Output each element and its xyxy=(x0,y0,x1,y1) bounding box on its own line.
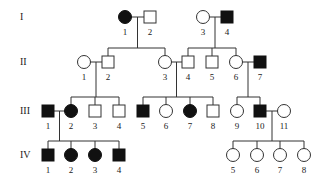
individual-number: 7 xyxy=(188,121,193,131)
affected-male-iv-1-square-icon xyxy=(42,149,54,161)
individual-number: 4 xyxy=(225,27,230,37)
affected-male-iv-4-square-icon xyxy=(113,149,125,161)
individual-number: 4 xyxy=(186,72,191,82)
generation-label: III xyxy=(20,105,30,116)
affected-female-i-1-circle-icon xyxy=(119,11,132,24)
affected-male-iii-1-square-icon xyxy=(42,105,54,117)
affected-female-iv-2-circle-icon xyxy=(65,149,78,162)
individual-number: 4 xyxy=(117,121,122,131)
individual-number: 6 xyxy=(234,72,239,82)
unaffected-male-ii-2-square-icon xyxy=(102,56,114,68)
unaffected-female-ii-1-circle-icon xyxy=(78,56,91,69)
individual-number: 2 xyxy=(69,165,74,175)
relationship-lines xyxy=(48,17,304,149)
individual-number: 5 xyxy=(141,121,146,131)
pedigree-canvas: IIIIIIIV 1234123456712345678910111234567… xyxy=(0,0,326,182)
affected-male-iii-10-square-icon xyxy=(254,105,266,117)
individual-number: 2 xyxy=(69,121,74,131)
individual-number: 6 xyxy=(164,121,169,131)
unaffected-female-iv-5-circle-icon xyxy=(227,149,240,162)
unaffected-male-ii-4-square-icon xyxy=(182,56,194,68)
individual-number: 3 xyxy=(93,165,98,175)
unaffected-male-iii-8-square-icon xyxy=(207,105,219,117)
generation-label: II xyxy=(20,56,27,67)
individual-number: 1 xyxy=(82,72,87,82)
individual-number: 7 xyxy=(258,72,263,82)
unaffected-female-iv-8-circle-icon xyxy=(298,149,311,162)
generation-label: I xyxy=(20,11,23,22)
individual-number: 7 xyxy=(278,165,283,175)
unaffected-female-iii-6-circle-icon xyxy=(160,105,173,118)
individual-number: 4 xyxy=(117,165,122,175)
individual-number: 2 xyxy=(148,27,153,37)
unaffected-male-ii-5-square-icon xyxy=(206,56,218,68)
individual-number: 3 xyxy=(201,27,206,37)
affected-female-iii-7-circle-icon xyxy=(184,105,197,118)
individual-number: 1 xyxy=(123,27,128,37)
individual-number: 8 xyxy=(211,121,216,131)
generation-labels: IIIIIIIV xyxy=(20,11,31,160)
affected-male-i-4-square-icon xyxy=(221,11,233,23)
unaffected-female-i-3-circle-icon xyxy=(197,11,210,24)
individual-number: 5 xyxy=(231,165,236,175)
affected-male-iii-5-square-icon xyxy=(137,105,149,117)
unaffected-female-ii-3-circle-icon xyxy=(159,56,172,69)
unaffected-female-iv-6-circle-icon xyxy=(251,149,264,162)
individual-number: 1 xyxy=(46,165,51,175)
individual-number: 3 xyxy=(163,72,168,82)
individual-number: 11 xyxy=(280,121,289,131)
individual-number: 6 xyxy=(255,165,260,175)
individual-number: 10 xyxy=(256,121,266,131)
unaffected-female-iii-9-circle-icon xyxy=(231,105,244,118)
affected-female-iv-3-circle-icon xyxy=(89,149,102,162)
individual-number: 3 xyxy=(93,121,98,131)
unaffected-male-iii-3-square-icon xyxy=(89,105,101,117)
unaffected-male-iii-4-square-icon xyxy=(113,105,125,117)
unaffected-female-iv-7-circle-icon xyxy=(274,149,287,162)
individual-number: 9 xyxy=(235,121,240,131)
affected-female-iii-2-circle-icon xyxy=(65,105,78,118)
individual-number: 1 xyxy=(46,121,51,131)
unaffected-female-ii-6-circle-icon xyxy=(230,56,243,69)
unaffected-male-i-2-square-icon xyxy=(144,11,156,23)
affected-male-ii-7-square-icon xyxy=(254,56,266,68)
generation-label: IV xyxy=(20,149,31,160)
individual-number: 5 xyxy=(210,72,215,82)
pedigree-chart: IIIIIIIV 1234123456712345678910111234567… xyxy=(0,0,326,182)
individual-number: 8 xyxy=(302,165,307,175)
unaffected-female-iii-11-circle-icon xyxy=(278,105,291,118)
individual-number: 2 xyxy=(106,72,111,82)
